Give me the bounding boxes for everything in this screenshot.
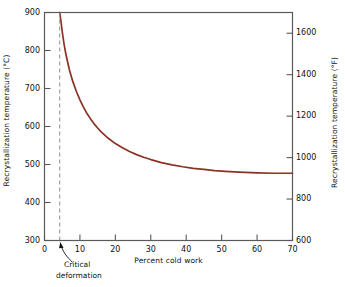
y-tick-label-right-1200: 1200 — [296, 111, 324, 120]
x-tick-label-70: 70 — [281, 245, 305, 254]
y-tick-label-left-600: 600 — [14, 122, 40, 131]
critical-deformation-label-line1: Critical — [64, 260, 90, 269]
x-tick-label-0: 0 — [33, 245, 57, 254]
x-tick-label-10: 10 — [68, 245, 92, 254]
y-tick-label-right-600: 600 — [296, 236, 324, 245]
y-tick-label-left-400: 400 — [14, 198, 40, 207]
x-tick-label-60: 60 — [245, 245, 269, 254]
y-tick-label-right-800: 800 — [296, 194, 324, 203]
critical-deformation-arrowhead — [59, 243, 64, 249]
x-tick-label-50: 50 — [210, 245, 234, 254]
x-tick-label-30: 30 — [139, 245, 163, 254]
recrystallization-temperature-chart: Recrystallization temperature (°C) Recry… — [0, 0, 345, 287]
y-tick-label-left-900: 900 — [14, 8, 40, 17]
y-tick-label-left-300: 300 — [14, 236, 40, 245]
y-tick-label-left-800: 800 — [14, 46, 40, 55]
data-series-group — [60, 13, 293, 174]
critical-deformation-label-line2: deformation — [56, 271, 102, 280]
series-line-0 — [60, 13, 293, 174]
y-tick-label-left-500: 500 — [14, 160, 40, 169]
axis-ticks-group — [45, 13, 293, 241]
y-tick-label-left-700: 700 — [14, 84, 40, 93]
y-tick-label-right-1000: 1000 — [296, 153, 324, 162]
plot-frame — [45, 13, 293, 241]
y-tick-label-right-1600: 1600 — [296, 28, 324, 37]
y-tick-label-right-1400: 1400 — [296, 70, 324, 79]
x-tick-label-40: 40 — [174, 245, 198, 254]
x-tick-label-20: 20 — [103, 245, 127, 254]
